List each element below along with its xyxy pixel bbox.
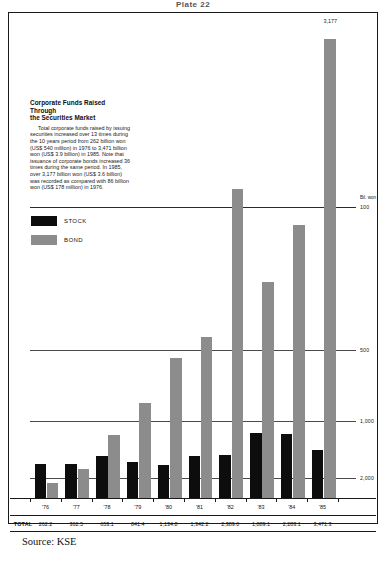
year-header-83: '83 — [246, 504, 276, 510]
bar-stock-78 — [96, 456, 108, 498]
axis-tick-mark — [338, 498, 339, 502]
bar-bond-84 — [293, 225, 305, 498]
year-header-77: '77 — [61, 504, 91, 510]
bar-stock-82 — [219, 455, 231, 498]
legend-item-stock: STOCK — [31, 216, 87, 226]
axis-tick-mark — [307, 498, 308, 502]
table-rule-2 — [10, 531, 376, 532]
bar-bond-81 — [201, 337, 213, 498]
year-header-85: '85 — [308, 504, 338, 510]
total-value-83: 1,889.1 — [245, 521, 277, 527]
bar-bond-80 — [170, 358, 182, 498]
axis-tick-mark — [184, 498, 185, 502]
chart-legend: STOCK BOND — [31, 216, 87, 254]
total-value-79: 841.4 — [122, 521, 154, 527]
bar-bond-85 — [324, 39, 336, 498]
gridline-2000 — [30, 207, 356, 208]
bar-stock-80 — [158, 465, 170, 498]
total-value-82: 2,389.0 — [214, 521, 246, 527]
bar-stock-83 — [250, 433, 262, 498]
total-value-78: 653.1 — [91, 521, 123, 527]
legend-label-stock: STOCK — [64, 218, 87, 224]
year-header-81: '81 — [184, 504, 214, 510]
axis-tick-mark — [215, 498, 216, 502]
gridline-500 — [30, 421, 356, 422]
total-value-80: 1,134.8 — [153, 521, 185, 527]
year-header-79: '79 — [123, 504, 153, 510]
bar-stock-81 — [189, 456, 201, 498]
total-value-77: 362.5 — [60, 521, 92, 527]
axis-tick-mark — [122, 498, 123, 502]
axis-tick-mark — [92, 498, 93, 502]
bar-stock-85 — [312, 450, 324, 498]
story-block: Corporate Funds Raised Through the Secur… — [30, 99, 132, 191]
story-heading-line2: the Securities Market — [30, 114, 95, 121]
year-header-76: '76 — [30, 504, 60, 510]
legend-swatch-stock — [31, 216, 57, 226]
story-body: Total corporate funds raised by issuing … — [30, 125, 132, 191]
axis-tick-mark — [276, 498, 277, 502]
axis-tick-mark — [61, 498, 62, 502]
gridline-1000 — [30, 350, 356, 351]
table-rule-0 — [10, 498, 376, 499]
source-note: Source: KSE — [22, 536, 77, 547]
year-header-84: '84 — [277, 504, 307, 510]
axis-tick-100: 2,000 — [360, 475, 374, 481]
axis-tick-500: 1,000 — [360, 418, 374, 424]
bar-stock-84 — [281, 434, 293, 498]
axis-tick-mark — [153, 498, 154, 502]
axis-tick-1000: 500 — [360, 347, 369, 353]
story-heading-line1: Corporate Funds Raised Through — [30, 99, 105, 114]
axis-tick-mark — [246, 498, 247, 502]
total-value-84: 2,283.1 — [276, 521, 308, 527]
bar-stock-77 — [65, 464, 77, 498]
bar-bond-82 — [232, 189, 244, 498]
bar-value-label: 3,177 — [320, 18, 341, 24]
axis-tick-mark — [30, 498, 31, 502]
bar-stock-76 — [35, 464, 47, 498]
bar-bond-78 — [108, 435, 120, 498]
plot-area: 2,0001,000500100Bil. won3,177'76262.2'77… — [8, 12, 378, 524]
year-header-78: '78 — [92, 504, 122, 510]
bar-bond-77 — [78, 469, 90, 498]
axis-tick-2000: 100 — [360, 204, 369, 210]
table-rule-1 — [10, 515, 376, 516]
bar-bond-83 — [262, 282, 274, 498]
year-header-80: '80 — [154, 504, 184, 510]
legend-swatch-bond — [31, 235, 57, 245]
axis-unit-label: Bil. won — [360, 195, 376, 200]
legend-item-bond: BOND — [31, 235, 87, 245]
bar-bond-76 — [47, 483, 59, 498]
bar-stock-79 — [127, 462, 139, 498]
year-header-82: '82 — [215, 504, 245, 510]
bar-bond-79 — [139, 403, 151, 498]
story-heading: Corporate Funds Raised Through the Secur… — [30, 99, 132, 122]
total-value-81: 1,342.2 — [183, 521, 215, 527]
legend-label-bond: BOND — [64, 237, 83, 243]
chart-plate: Plate 22 2,0001,000500100Bil. won3,177'7… — [0, 0, 386, 572]
plate-title: Plate 22 — [0, 0, 386, 11]
total-value-85: 3,471.3 — [307, 521, 339, 527]
total-row-label: TOTAL — [11, 521, 35, 527]
